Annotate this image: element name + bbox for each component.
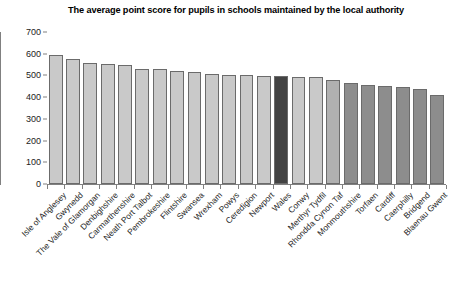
- x-axis-label: Torfaen: [353, 190, 380, 217]
- x-axis-label: Conwy: [285, 190, 310, 215]
- bar-isle-of-anglesey: [49, 55, 63, 184]
- bar-merthyr-tydfil: [309, 77, 323, 184]
- y-axis-tick-mark: [43, 162, 47, 163]
- x-axis-tick-mark: [377, 185, 378, 189]
- x-axis-tick-mark: [359, 185, 360, 189]
- x-axis-label: Swansea: [175, 190, 206, 221]
- bar-swansea: [188, 72, 202, 184]
- x-axis-tick-mark: [134, 185, 135, 189]
- x-axis-label: Flintshire: [158, 190, 189, 221]
- x-axis-tick-mark: [325, 185, 326, 189]
- x-axis-tick-mark: [429, 185, 430, 189]
- chart-title: The average point score for pupils in sc…: [52, 4, 420, 17]
- x-axis-label: Newport: [247, 190, 276, 219]
- x-axis-tick-mark: [47, 185, 48, 189]
- plot-area: 7006005004003002001000: [47, 32, 446, 184]
- bar-carmarthenshire: [118, 65, 132, 184]
- bar-newport: [257, 76, 271, 184]
- bar-caerphilly: [396, 87, 410, 184]
- x-axis-label: Merthyr Tydfil: [285, 190, 328, 233]
- x-axis-tick-mark: [99, 185, 100, 189]
- x-axis-label: Powys: [217, 190, 242, 215]
- bar-rhondda-cynon-taf: [326, 80, 340, 184]
- x-axis-tick-mark: [307, 185, 308, 189]
- x-axis-label: Caerphilly: [381, 190, 414, 223]
- x-axis-tick-mark: [273, 185, 274, 189]
- y-axis-tick-mark: [43, 97, 47, 98]
- y-axis-tick-mark: [43, 118, 47, 119]
- bar-wrexham: [205, 74, 219, 184]
- bar-neath-port-talbot: [135, 69, 149, 184]
- bar-wales: [274, 76, 288, 184]
- x-axis-label: Ceredigion: [223, 190, 259, 226]
- bar-conwy: [292, 77, 306, 184]
- x-axis-label: The Vale of Glamorgan: [35, 190, 103, 258]
- y-axis-tick-mark: [43, 32, 47, 33]
- x-axis-label: Cardiff: [373, 190, 397, 214]
- bar-powys: [222, 75, 236, 184]
- bar-blaenau-gwent: [430, 95, 444, 184]
- x-axis-tick-mark: [411, 185, 412, 189]
- x-axis-label: Blaenau Gwent: [402, 190, 450, 238]
- x-axis-label: Rhondda Cynon Taf: [286, 190, 345, 249]
- x-axis-label: Pembrokeshire: [125, 190, 172, 237]
- bar-cardiff: [378, 86, 392, 184]
- bar-ceredigion: [240, 75, 254, 184]
- x-axis-tick-mark: [446, 185, 447, 189]
- bar-denbighshire: [101, 64, 115, 184]
- x-axis-tick-mark: [82, 185, 83, 189]
- bar-flintshire: [170, 71, 184, 184]
- x-axis-label: Neath Port Talbot: [102, 190, 155, 243]
- bar-bridgend: [413, 89, 427, 184]
- x-axis-label: Carmarthenshire: [86, 190, 137, 241]
- x-axis-tick-mark: [203, 185, 204, 189]
- x-axis-label: Denbighshire: [78, 190, 120, 232]
- x-axis-label: Wrexham: [192, 190, 224, 222]
- bar-the-vale-of-glamorgan: [83, 63, 97, 184]
- x-axis-tick-mark: [64, 185, 65, 189]
- y-axis-tick-mark: [43, 53, 47, 54]
- x-axis-label: Monmouthshire: [315, 190, 363, 238]
- x-axis-label: Gwynedd: [53, 190, 85, 222]
- y-axis-tick-mark: [43, 75, 47, 76]
- x-axis-tick-mark: [394, 185, 395, 189]
- x-axis-label: Isle of Anglesey: [19, 190, 68, 239]
- x-axis-tick-mark: [255, 185, 256, 189]
- x-axis-label: Bridgend: [401, 190, 432, 221]
- y-axis-tick-mark: [43, 140, 47, 141]
- x-axis-tick-mark: [151, 185, 152, 189]
- x-axis-tick-mark: [342, 185, 343, 189]
- y-axis-line: [0, 32, 1, 185]
- x-axis-tick-mark: [186, 185, 187, 189]
- x-axis-tick-mark: [116, 185, 117, 189]
- x-axis-tick-mark: [238, 185, 239, 189]
- x-axis-tick-mark: [220, 185, 221, 189]
- bar-pembrokeshire: [153, 69, 167, 184]
- x-axis-tick-mark: [290, 185, 291, 189]
- bar-chart-figure: The average point score for pupils in sc…: [0, 0, 462, 285]
- x-axis-tick-mark: [168, 185, 169, 189]
- bar-gwynedd: [66, 59, 80, 184]
- bar-monmouthshire: [344, 83, 358, 184]
- bar-torfaen: [361, 85, 375, 184]
- x-axis-line: [47, 184, 446, 185]
- x-axis-label: Wales: [270, 190, 293, 213]
